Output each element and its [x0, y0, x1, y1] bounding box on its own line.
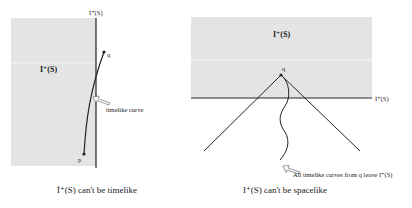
right-caption: I⁺(S) can't be spacelike [243, 185, 327, 195]
left-caption: İ⁺(S) can't be timelike [57, 185, 137, 195]
right-panel: İ⁺(S) I⁺(S) q All timelike curves from q… [191, 17, 392, 195]
point-p-marker [82, 152, 85, 155]
left-shaded-region [11, 18, 96, 166]
left-region-label: I⁺(S) [40, 65, 57, 74]
timelike-curve-label: timelike curve [106, 106, 143, 113]
left-panel: İ⁺(S) I⁺(S) q p timelike curve İ⁺(S) can… [11, 9, 143, 195]
left-boundary-label: İ⁺(S) [89, 9, 103, 17]
diagram-canvas: İ⁺(S) I⁺(S) q p timelike curve İ⁺(S) can… [0, 0, 412, 208]
right-curve-label: All timelike curves from q leave I⁺(S) [293, 171, 392, 179]
right-region-label: I⁺(S) [273, 30, 290, 39]
right-boundary-label: İ⁺(S) [375, 95, 389, 103]
left-point-p-label: p [78, 156, 81, 163]
point-q-marker [102, 50, 105, 53]
left-point-q-label: q [107, 51, 111, 58]
